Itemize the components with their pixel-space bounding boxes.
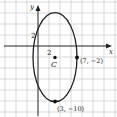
y-axis-arrow-icon	[36, 5, 41, 11]
coordinate-plane: x y 2 2 C (7, −2) (3, −10)	[0, 0, 117, 117]
center-label: C	[51, 60, 57, 69]
center-point-c	[53, 56, 56, 59]
diagram-stage: x y 2 2 C (7, −2) (3, −10)	[0, 0, 117, 117]
x-tick-label: 2	[47, 49, 51, 57]
bottom-vertex-point	[53, 100, 57, 104]
right-vertex-point	[75, 56, 79, 60]
bottom-vertex-label: (3, −10)	[57, 105, 85, 113]
right-vertex-label: (7, −2)	[80, 57, 103, 65]
x-axis-label: x	[109, 48, 113, 56]
y-axis-label: y	[29, 3, 35, 11]
